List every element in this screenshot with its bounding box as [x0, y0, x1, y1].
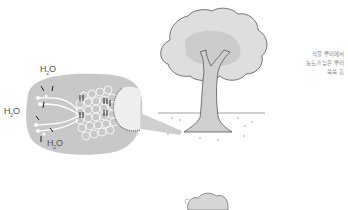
h2o-label-left: H2O — [4, 106, 20, 118]
tree — [158, 8, 267, 141]
note-line-2: 농도가 높은 뿌리 — [284, 59, 344, 68]
handwritten-note: 식물 뿌리에서 농도가 높은 뿌리 쑥쑥 흡 — [284, 50, 344, 77]
h2o-label-bottom: H2O — [47, 138, 63, 150]
h2o-label-top: H2O — [40, 64, 56, 76]
root-absorption-illustration — [0, 0, 348, 210]
second-tree-partial — [185, 193, 228, 210]
note-line-1: 식물 뿌리에서 — [284, 50, 344, 59]
note-line-3: 쑥쑥 흡 — [284, 68, 344, 77]
